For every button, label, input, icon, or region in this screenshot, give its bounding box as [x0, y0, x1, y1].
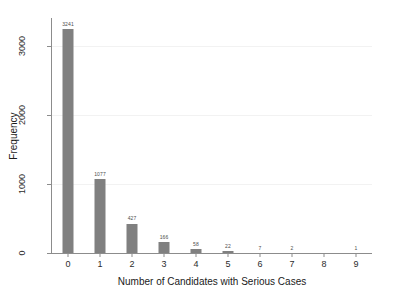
x-tick-label: 2 — [129, 259, 134, 269]
bar-value-label: 1077 — [94, 171, 106, 177]
y-tick-mark — [47, 184, 52, 185]
x-tick-mark — [228, 253, 229, 257]
y-axis-title-wrapper: Frequency — [6, 18, 20, 253]
histogram-screenshot: 324110774271665822721 0100020003000 0123… — [0, 0, 397, 304]
x-tick-label: 6 — [257, 259, 262, 269]
x-tick-label: 9 — [353, 259, 358, 269]
x-tick-mark — [164, 253, 165, 257]
x-tick-mark — [196, 253, 197, 257]
bar — [127, 224, 138, 254]
x-tick-label: 0 — [65, 259, 70, 269]
bar — [95, 179, 106, 253]
bar-value-label: 427 — [128, 215, 137, 221]
x-tick-mark — [260, 253, 261, 257]
x-tick-label: 4 — [193, 259, 198, 269]
bar-value-label: 3241 — [62, 21, 74, 27]
bar-value-label: 7 — [259, 245, 262, 251]
y-tick-mark — [47, 253, 52, 254]
x-tick-mark — [132, 253, 133, 257]
x-tick-mark — [324, 253, 325, 257]
x-tick-mark — [356, 253, 357, 257]
bar-value-label: 1 — [355, 245, 358, 251]
x-tick-label: 1 — [97, 259, 102, 269]
bar-value-label: 58 — [193, 241, 199, 247]
bar — [159, 242, 170, 253]
x-axis-title: Number of Candidates with Serious Cases — [52, 276, 372, 287]
bar — [63, 29, 74, 253]
y-axis-line — [51, 18, 52, 253]
y-tick-mark — [47, 115, 52, 116]
y-axis-title: Frequency — [8, 112, 19, 159]
bar-value-label: 22 — [225, 243, 231, 249]
x-tick-mark — [68, 253, 69, 257]
bar-value-label: 166 — [160, 234, 169, 240]
x-tick-label: 7 — [289, 259, 294, 269]
x-tick-label: 8 — [321, 259, 326, 269]
y-tick-mark — [47, 46, 52, 47]
x-tick-mark — [100, 253, 101, 257]
x-tick-label: 5 — [225, 259, 230, 269]
gridline — [52, 115, 372, 116]
plot-area: 324110774271665822721 — [52, 18, 372, 253]
x-tick-label: 3 — [161, 259, 166, 269]
bar-value-label: 2 — [291, 245, 294, 251]
gridline — [52, 46, 372, 47]
x-tick-mark — [292, 253, 293, 257]
